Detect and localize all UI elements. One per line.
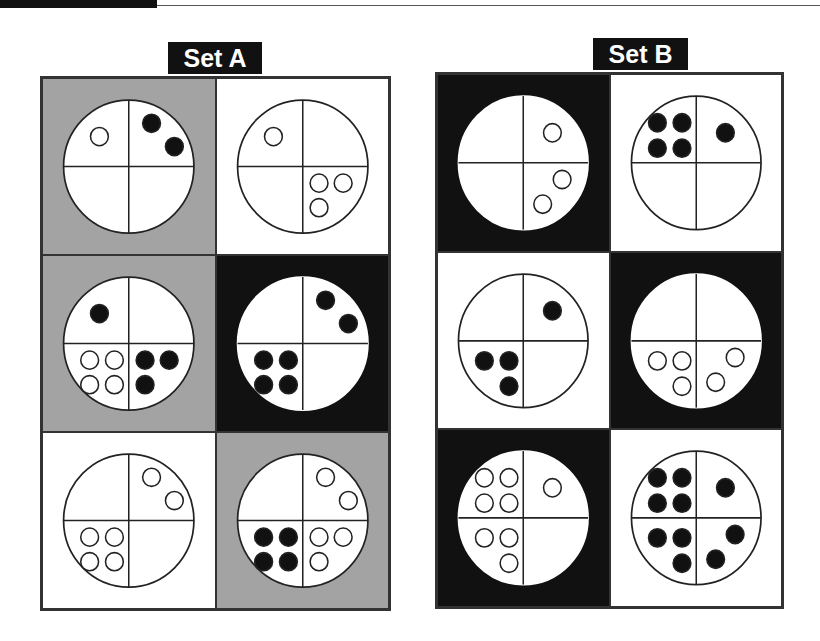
hollow-dot-icon <box>334 528 352 546</box>
quartered-circle-icon <box>217 79 389 254</box>
hollow-dot-icon <box>81 528 99 546</box>
filled-dot-icon <box>673 494 691 512</box>
quartered-circle-icon <box>611 75 782 251</box>
figure-cell <box>610 252 783 430</box>
quartered-circle-icon <box>43 79 215 254</box>
filled-dot-icon <box>165 137 183 155</box>
filled-dot-icon <box>706 550 724 568</box>
figure-cell <box>437 74 610 252</box>
hollow-dot-icon <box>105 553 123 571</box>
hollow-dot-icon <box>81 376 99 394</box>
filled-dot-icon <box>136 351 154 369</box>
set-b-title: Set B <box>593 38 688 70</box>
filled-dot-icon <box>500 377 518 395</box>
filled-dot-icon <box>673 139 691 157</box>
quartered-circle-icon <box>438 253 609 429</box>
hollow-dot-icon <box>706 373 724 391</box>
hollow-dot-icon <box>476 469 494 487</box>
hollow-dot-icon <box>310 199 328 217</box>
hollow-dot-icon <box>334 174 352 192</box>
figure-cell <box>216 255 390 432</box>
hollow-dot-icon <box>81 351 99 369</box>
filled-dot-icon <box>279 351 297 369</box>
quartered-circle-icon <box>43 433 215 608</box>
filled-dot-icon <box>673 529 691 547</box>
filled-dot-icon <box>136 376 154 394</box>
hollow-dot-icon <box>165 491 183 509</box>
hollow-dot-icon <box>310 174 328 192</box>
figure-cell <box>610 429 783 607</box>
hollow-dot-icon <box>310 553 328 571</box>
filled-dot-icon <box>716 479 734 497</box>
filled-dot-icon <box>279 553 297 571</box>
figure-cell <box>216 78 390 255</box>
header-bar <box>0 0 157 8</box>
filled-dot-icon <box>91 304 109 322</box>
hollow-dot-icon <box>339 491 357 509</box>
hollow-dot-icon <box>726 348 744 366</box>
set-a-grid <box>40 76 391 611</box>
filled-dot-icon <box>476 351 494 369</box>
figure-cell <box>610 74 783 252</box>
quartered-circle-icon <box>611 430 782 606</box>
quartered-circle-icon <box>217 433 389 608</box>
filled-dot-icon <box>254 376 272 394</box>
figure-cell <box>42 432 216 609</box>
header-rule <box>157 5 820 6</box>
quartered-circle-icon <box>438 430 609 606</box>
hollow-dot-icon <box>534 195 552 213</box>
filled-dot-icon <box>160 351 178 369</box>
filled-dot-icon <box>500 351 518 369</box>
hollow-dot-icon <box>310 528 328 546</box>
hollow-dot-icon <box>316 468 334 486</box>
hollow-dot-icon <box>673 351 691 369</box>
set-a-title: Set A <box>168 42 262 74</box>
filled-dot-icon <box>648 114 666 132</box>
hollow-dot-icon <box>648 351 666 369</box>
filled-dot-icon <box>726 526 744 544</box>
filled-dot-icon <box>279 376 297 394</box>
hollow-dot-icon <box>476 494 494 512</box>
filled-dot-icon <box>673 554 691 572</box>
hollow-dot-icon <box>91 127 109 145</box>
figure-cell <box>42 255 216 432</box>
filled-dot-icon <box>254 528 272 546</box>
hollow-dot-icon <box>476 529 494 547</box>
filled-dot-icon <box>254 553 272 571</box>
filled-dot-icon <box>673 469 691 487</box>
filled-dot-icon <box>544 301 562 319</box>
figure-cell <box>42 78 216 255</box>
filled-dot-icon <box>648 529 666 547</box>
hollow-dot-icon <box>500 554 518 572</box>
hollow-dot-icon <box>500 469 518 487</box>
filled-dot-icon <box>316 291 334 309</box>
hollow-dot-icon <box>143 468 161 486</box>
figure-cell <box>437 429 610 607</box>
filled-dot-icon <box>339 314 357 332</box>
hollow-dot-icon <box>544 479 562 497</box>
filled-dot-icon <box>648 139 666 157</box>
hollow-dot-icon <box>673 377 691 395</box>
hollow-dot-icon <box>81 553 99 571</box>
hollow-dot-icon <box>500 494 518 512</box>
quartered-circle-icon <box>217 256 389 431</box>
filled-dot-icon <box>143 114 161 132</box>
filled-dot-icon <box>673 114 691 132</box>
hollow-dot-icon <box>105 376 123 394</box>
filled-dot-icon <box>716 124 734 142</box>
figure-cell <box>437 252 610 430</box>
filled-dot-icon <box>279 528 297 546</box>
figure-cell <box>216 432 390 609</box>
hollow-dot-icon <box>544 124 562 142</box>
hollow-dot-icon <box>105 351 123 369</box>
quartered-circle-icon <box>43 256 215 431</box>
set-b-grid <box>435 72 784 609</box>
hollow-dot-icon <box>553 170 571 188</box>
filled-dot-icon <box>648 469 666 487</box>
quartered-circle-icon <box>611 253 782 429</box>
hollow-dot-icon <box>105 528 123 546</box>
hollow-dot-icon <box>264 127 282 145</box>
filled-dot-icon <box>254 351 272 369</box>
hollow-dot-icon <box>500 529 518 547</box>
quartered-circle-icon <box>438 75 609 251</box>
